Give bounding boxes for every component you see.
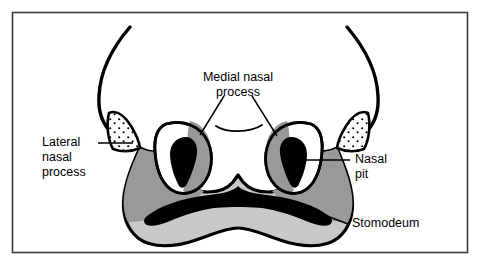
label-lateral-nasal-process-line-2: nasal [42, 150, 72, 164]
label-nasal-pit-line-1: Nasal [355, 152, 387, 166]
label-stomodeum-line-1: Stomodeum [352, 216, 419, 230]
label-stomodeum: Stomodeum [352, 216, 419, 230]
embryo-face-diagram: Medial nasal process Lateral nasal proce… [0, 0, 477, 266]
label-medial-nasal-process-line-2: process [216, 85, 260, 99]
label-medial-nasal-process-line-1: Medial nasal [203, 70, 273, 84]
label-nasal-pit-line-2: pit [355, 167, 369, 181]
label-lateral-nasal-process-line-1: Lateral [42, 135, 80, 149]
figure-root: Medial nasal process Lateral nasal proce… [0, 0, 477, 266]
label-lateral-nasal-process-line-3: process [42, 165, 86, 179]
